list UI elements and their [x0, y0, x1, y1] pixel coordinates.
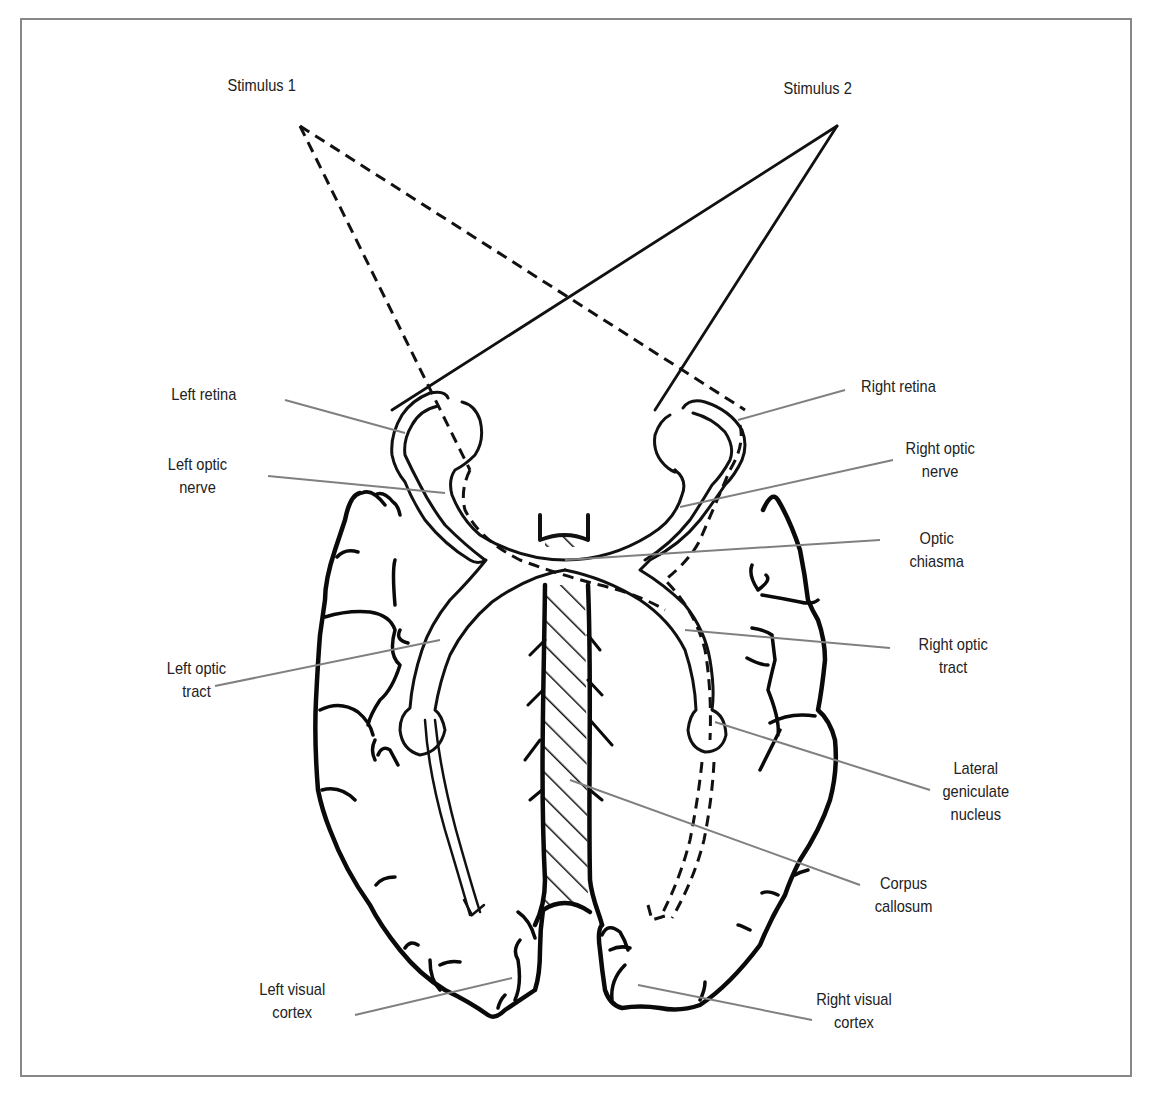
label-left-optic-nerve: Left optic nerve: [168, 453, 227, 499]
left-eye: [392, 392, 684, 915]
label-left-retina: Left retina: [171, 383, 236, 406]
label-right-visual-cortex: Right visual cortex: [816, 988, 892, 1034]
label-corpus-callosum: Corpus callosum: [875, 872, 933, 918]
visual-pathway-diagram: [0, 0, 1150, 1105]
label-right-retina: Right retina: [861, 375, 936, 398]
stimulus-2-rays: [392, 126, 837, 410]
right-hemisphere: [599, 497, 836, 1010]
right-eye: [463, 401, 745, 920]
label-optic-chiasma: Optic chiasma: [909, 527, 963, 573]
label-stimulus-1: Stimulus 1: [228, 74, 296, 97]
label-left-visual-cortex: Left visual cortex: [259, 978, 325, 1024]
label-stimulus-2: Stimulus 2: [784, 77, 852, 100]
stimulus-1-rays: [300, 126, 745, 470]
label-lateral-geniculate-nucleus: Lateral geniculate nucleus: [942, 757, 1009, 826]
label-right-optic-nerve: Right optic nerve: [906, 437, 975, 483]
label-right-optic-tract: Right optic tract: [919, 633, 988, 679]
label-left-optic-tract: Left optic tract: [167, 657, 226, 703]
